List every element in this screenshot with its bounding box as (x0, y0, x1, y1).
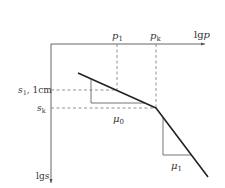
p1-label: p1 (112, 30, 123, 43)
mu0-label: μ0 (113, 113, 124, 126)
sk-label: sk (37, 103, 46, 115)
x-axis-label: lgp (194, 29, 211, 40)
y-axis-label: lgs (36, 171, 50, 181)
compression-curve (78, 73, 208, 177)
mu1-label: μ1 (171, 160, 182, 173)
pk-label: pk (150, 30, 161, 43)
compression-curve-diagram: lgp lgs p1 pk s1, 1cm sk μ0 μ1 (0, 0, 225, 188)
s1-label: s1, 1cm (18, 85, 52, 97)
